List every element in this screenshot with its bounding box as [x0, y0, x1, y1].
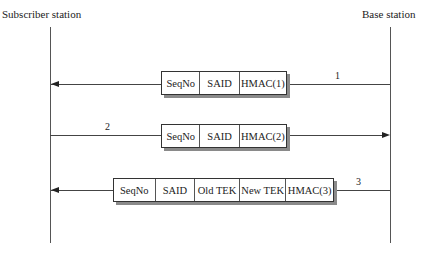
field-said: SAID — [200, 72, 239, 94]
field-hmac: HMAC(3) — [286, 179, 333, 201]
arrow-left-icon — [51, 81, 59, 87]
field-seqno: SeqNo — [162, 72, 200, 94]
field-seqno: SeqNo — [114, 179, 156, 201]
message-1-packet: SeqNo SAID HMAC(1) — [161, 71, 287, 95]
arrow-right-icon — [382, 132, 390, 138]
field-old-tek: Old TEK — [195, 179, 240, 201]
field-seqno: SeqNo — [162, 125, 200, 147]
message-2-packet: SeqNo SAID HMAC(2) — [161, 124, 287, 148]
field-hmac: HMAC(1) — [240, 72, 286, 94]
field-hmac: HMAC(2) — [240, 125, 286, 147]
arrow-left-icon — [51, 187, 59, 193]
field-said: SAID — [200, 125, 239, 147]
message-3-number: 3 — [356, 176, 361, 187]
base-station-label: Base station — [362, 8, 415, 20]
message-3-packet: SeqNo SAID Old TEK New TEK HMAC(3) — [113, 178, 334, 202]
field-said: SAID — [156, 179, 196, 201]
message-2-number: 2 — [105, 121, 110, 132]
field-new-tek: New TEK — [240, 179, 287, 201]
base-lifeline — [390, 27, 391, 243]
message-1-number: 1 — [335, 70, 340, 81]
subscriber-station-label: Subscriber station — [2, 8, 81, 20]
